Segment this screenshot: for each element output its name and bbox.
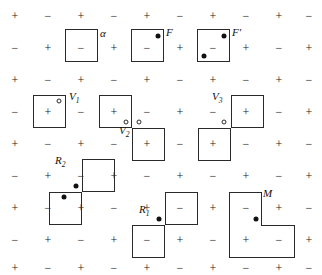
lattice-sign-r8-c2: + — [74, 261, 88, 275]
lattice-sign-r0-c6: + — [206, 9, 220, 23]
piece-label-base-F: F — [166, 26, 173, 38]
lattice-sign-r5-c9: + — [302, 169, 316, 183]
piece-alpha-cell-0 — [65, 29, 98, 62]
lattice-sign-r1-c7: + — [239, 41, 253, 55]
lattice-sign-r6-c3: − — [107, 201, 121, 215]
lattice-sign-r2-c2: + — [74, 73, 88, 87]
piece-R1-cell-0 — [165, 192, 198, 225]
piece-label-alpha: α — [100, 27, 106, 39]
lattice-sign-r3-c6: − — [206, 105, 220, 119]
piece-V1-open-dot-0 — [57, 99, 62, 104]
piece-label-V3: V3 — [212, 90, 222, 105]
lattice-sign-r8-c7: − — [239, 261, 253, 275]
lattice-sign-r8-c9: − — [302, 261, 316, 275]
piece-Fprime-filled-dot-0 — [222, 34, 227, 39]
lattice-sign-r6-c6: + — [206, 201, 220, 215]
lattice-sign-r7-c9: + — [302, 233, 316, 247]
piece-label-F: F — [166, 26, 173, 38]
lattice-sign-r5-c7: + — [239, 169, 253, 183]
lattice-sign-r8-c1: − — [41, 261, 55, 275]
lattice-sign-r3-c4: − — [140, 105, 154, 119]
piece-V3-cell-1 — [198, 128, 231, 161]
lattice-sign-r8-c4: + — [140, 261, 154, 275]
lattice-sign-r8-c6: + — [206, 261, 220, 275]
lattice-sign-r5-c6: − — [206, 169, 220, 183]
piece-M-seam-1 — [261, 226, 264, 257]
piece-label-base-M: M — [263, 187, 272, 199]
piece-R1-filled-dot-0 — [157, 217, 162, 222]
piece-M-filled-dot-0 — [254, 217, 259, 222]
lattice-sign-r7-c0: − — [8, 233, 22, 247]
lattice-sign-r3-c0: − — [8, 105, 22, 119]
lattice-sign-r0-c4: + — [140, 9, 154, 23]
lattice-sign-r4-c8: + — [272, 137, 286, 151]
piece-M-cell-1 — [229, 225, 262, 258]
piece-Fprime-filled-dot-1 — [202, 54, 207, 59]
lattice-sign-r5-c0: − — [8, 169, 22, 183]
lattice-sign-r7-c1: + — [41, 233, 55, 247]
piece-V3-cell-0 — [231, 95, 264, 128]
piece-V2-cell-1 — [132, 128, 165, 161]
lattice-sign-r7-c3: + — [107, 233, 121, 247]
lattice-sign-r1-c9: + — [302, 41, 316, 55]
lattice-sign-r0-c2: + — [74, 9, 88, 23]
lattice-sign-r6-c9: − — [302, 201, 316, 215]
piece-label-V2: V2 — [119, 124, 129, 139]
lattice-sign-r6-c8: + — [272, 201, 286, 215]
lattice-sign-r5-c5: + — [173, 169, 187, 183]
piece-V3-open-dot-0 — [222, 120, 227, 125]
lattice-sign-r1-c3: + — [107, 41, 121, 55]
lattice-sign-r0-c0: + — [8, 9, 22, 23]
lattice-sign-r8-c3: − — [107, 261, 121, 275]
piece-label-Fprime: F′ — [232, 26, 241, 38]
lattice-sign-r5-c8: − — [272, 169, 286, 183]
piece-label-base-V3: V — [212, 90, 219, 102]
lattice-sign-r1-c5: + — [173, 41, 187, 55]
piece-F-filled-dot-0 — [156, 34, 161, 39]
piece-V2-open-dot-1 — [137, 120, 142, 125]
lattice-sign-r0-c8: + — [272, 9, 286, 23]
lattice-figure: +−+−+−+−+−−+−+−+−+−++−+−+−+−+−−+−+−+−+−+… — [0, 0, 322, 275]
piece-label-base-alpha: α — [100, 27, 106, 39]
lattice-sign-r3-c2: − — [74, 105, 88, 119]
lattice-sign-r4-c0: + — [8, 137, 22, 151]
lattice-sign-r8-c0: + — [8, 261, 22, 275]
lattice-sign-r3-c5: + — [173, 105, 187, 119]
lattice-sign-r2-c0: + — [8, 73, 22, 87]
piece-label-R2: R2 — [55, 154, 65, 169]
lattice-sign-r2-c9: − — [302, 73, 316, 87]
piece-label-subscript-R1: 1 — [146, 209, 150, 218]
lattice-sign-r7-c6: − — [206, 233, 220, 247]
lattice-sign-r2-c6: + — [206, 73, 220, 87]
lattice-sign-r4-c9: − — [302, 137, 316, 151]
piece-M-seam-0 — [230, 224, 261, 227]
lattice-sign-r1-c0: − — [8, 41, 22, 55]
lattice-sign-r0-c7: − — [239, 9, 253, 23]
lattice-sign-r2-c4: + — [140, 73, 154, 87]
lattice-sign-r0-c3: − — [107, 9, 121, 23]
piece-R1-cell-1 — [132, 225, 165, 258]
lattice-sign-r4-c2: + — [74, 137, 88, 151]
piece-label-subscript-V2: 2 — [126, 130, 130, 139]
piece-label-base-V1: V — [69, 90, 76, 102]
lattice-sign-r5-c1: + — [41, 169, 55, 183]
piece-label-base-R2: R — [55, 154, 62, 166]
lattice-sign-r0-c1: − — [41, 9, 55, 23]
lattice-sign-r6-c0: + — [8, 201, 22, 215]
piece-label-base-R1: R — [139, 203, 146, 215]
lattice-sign-r8-c5: − — [173, 261, 187, 275]
lattice-sign-r0-c9: − — [302, 9, 316, 23]
piece-label-subscript-V1: 1 — [76, 96, 80, 105]
lattice-sign-r5-c4: − — [140, 169, 154, 183]
lattice-sign-r4-c7: − — [239, 137, 253, 151]
lattice-sign-r0-c5: − — [173, 9, 187, 23]
piece-label-base-Fprime: F′ — [232, 26, 241, 38]
lattice-sign-r1-c1: + — [41, 41, 55, 55]
piece-label-subscript-V3: 3 — [219, 96, 223, 105]
piece-label-M: M — [263, 187, 272, 199]
lattice-sign-r3-c9: + — [302, 105, 316, 119]
piece-label-R1: R1 — [139, 203, 149, 218]
lattice-sign-r1-c8: − — [272, 41, 286, 55]
lattice-sign-r2-c8: + — [272, 73, 286, 87]
lattice-sign-r7-c2: − — [74, 233, 88, 247]
